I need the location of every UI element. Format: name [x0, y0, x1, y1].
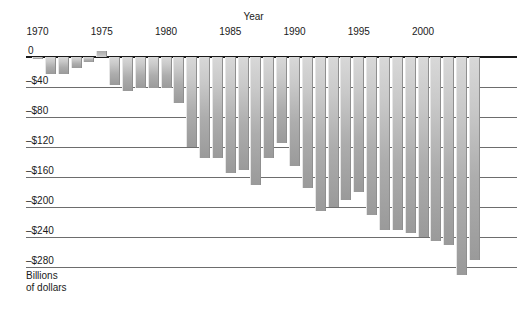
bar	[225, 57, 236, 173]
plot-area	[26, 0, 517, 314]
unit-caption-line-2: of dollars	[26, 282, 67, 294]
budget-deficit-chart: Year 1970197519801985199019952000 0–$40–…	[0, 0, 531, 314]
bar	[173, 57, 184, 103]
bar	[315, 57, 326, 211]
bar	[469, 57, 480, 260]
y-axis-unit-caption: Billions of dollars	[26, 270, 67, 294]
bar	[456, 57, 467, 275]
bar	[328, 57, 339, 207]
bar	[161, 57, 172, 88]
bar	[109, 57, 120, 85]
bar	[366, 57, 377, 215]
bar	[71, 57, 82, 68]
bar	[122, 57, 133, 91]
bar	[83, 57, 94, 62]
bar	[353, 57, 364, 192]
bar	[276, 57, 287, 143]
bar	[148, 57, 159, 88]
bar	[186, 57, 197, 147]
bar	[289, 57, 300, 166]
bar	[32, 57, 43, 59]
bar	[443, 57, 454, 245]
bar	[379, 57, 390, 230]
bar	[392, 57, 403, 230]
bar	[405, 57, 416, 233]
bar	[418, 57, 429, 237]
bar	[96, 51, 107, 57]
bar	[340, 57, 351, 200]
bar	[199, 57, 210, 158]
unit-caption-line-1: Billions	[26, 270, 67, 282]
bar	[430, 57, 441, 241]
bar	[45, 57, 56, 74]
bar	[250, 57, 261, 185]
bar	[302, 57, 313, 188]
bar	[263, 57, 274, 158]
bar	[212, 57, 223, 158]
bar	[238, 57, 249, 170]
bar	[135, 57, 146, 88]
bar	[58, 57, 69, 74]
